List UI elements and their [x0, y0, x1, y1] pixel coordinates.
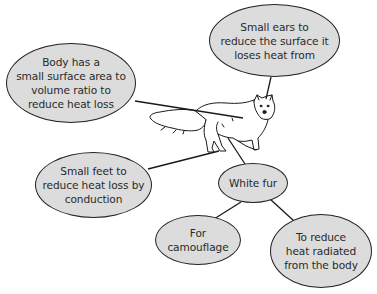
bubble-camouflage: For camouflage: [155, 215, 241, 265]
bubble-camouflage-label: For camouflage: [167, 226, 228, 254]
bubble-white-fur: White fur: [218, 163, 288, 203]
bubble-small-ears: Small ears to reduce the surface it lose…: [209, 4, 340, 77]
bubble-body-surface-area: Body has a small surface area to volume …: [6, 43, 136, 123]
connector-fur: [228, 138, 245, 164]
arctic-fox-icon: [150, 95, 275, 152]
connector-camouflage: [214, 202, 241, 219]
bubble-body-label: Body has a small surface area to volume …: [16, 55, 126, 111]
bubble-feet-label: Small feet to reduce heat loss by conduc…: [43, 164, 145, 206]
bubble-small-feet: Small feet to reduce heat loss by conduc…: [35, 152, 152, 218]
bubble-heat-radiated: To reduce heat radiated from the body: [270, 214, 372, 288]
connector-feet: [148, 151, 219, 169]
bubble-fur-label: White fur: [229, 176, 277, 190]
connector-radiated: [270, 199, 294, 221]
bubble-radiated-label: To reduce heat radiated from the body: [284, 230, 358, 272]
adaptation-diagram: Body has a small surface area to volume …: [0, 0, 377, 294]
bubble-ears-label: Small ears to reduce the surface it lose…: [220, 20, 328, 62]
